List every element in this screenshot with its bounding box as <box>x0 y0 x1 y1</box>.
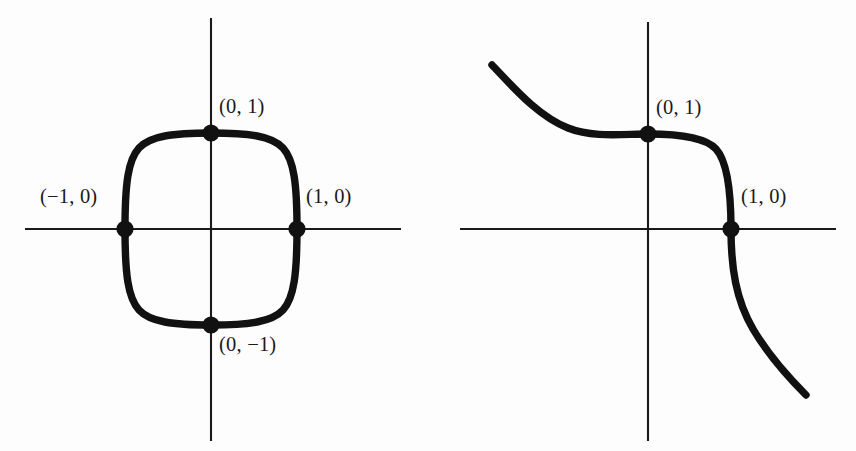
label-point-neg1-0: (−1, 0) <box>40 186 97 207</box>
point-marker-0-1 <box>202 124 219 141</box>
math-figure: (0, 1) (1, 0) (0, −1) (−1, 0) (0, 1) (1,… <box>0 0 856 451</box>
left-plot-panel: (0, 1) (1, 0) (0, −1) (−1, 0) <box>0 0 428 451</box>
point-marker-0-neg1 <box>202 316 219 333</box>
left-plot-svg <box>0 0 428 451</box>
label-point-0-1: (0, 1) <box>219 96 265 117</box>
label-point-0-neg1: (0, −1) <box>219 334 276 355</box>
right-plot-svg <box>428 0 856 451</box>
label-point-1-0: (1, 0) <box>306 186 352 207</box>
point-marker-0-1 <box>639 125 656 142</box>
point-marker-1-0 <box>288 220 305 237</box>
right-plot-panel: (0, 1) (1, 0) <box>428 0 856 451</box>
label-point-1-0: (1, 0) <box>741 186 787 207</box>
point-marker-neg1-0 <box>116 220 133 237</box>
point-marker-1-0 <box>722 220 739 237</box>
label-point-0-1: (0, 1) <box>656 97 702 118</box>
